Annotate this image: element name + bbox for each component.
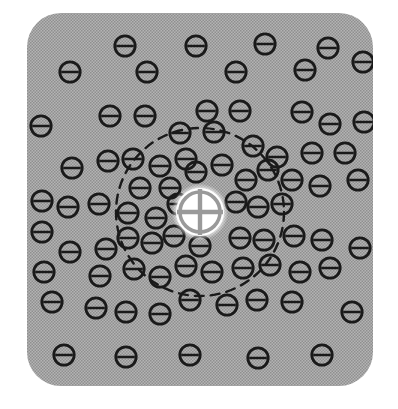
positive-test-charge bbox=[172, 184, 229, 241]
figure-canvas bbox=[0, 0, 398, 409]
plasma-debye-shielding-figure bbox=[0, 0, 398, 409]
